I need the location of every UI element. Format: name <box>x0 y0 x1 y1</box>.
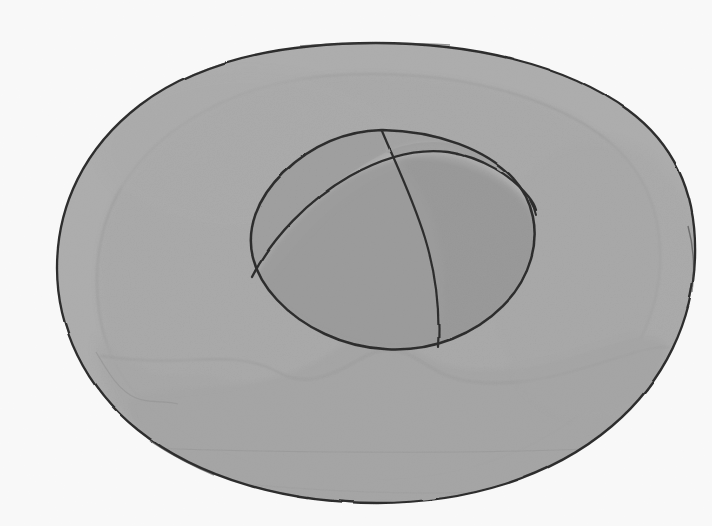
illustration-canvas: Hand-drawn grayscale illustration of an … <box>0 0 712 526</box>
global-paper-texture <box>0 0 712 526</box>
cell-illustration-svg <box>0 0 712 526</box>
